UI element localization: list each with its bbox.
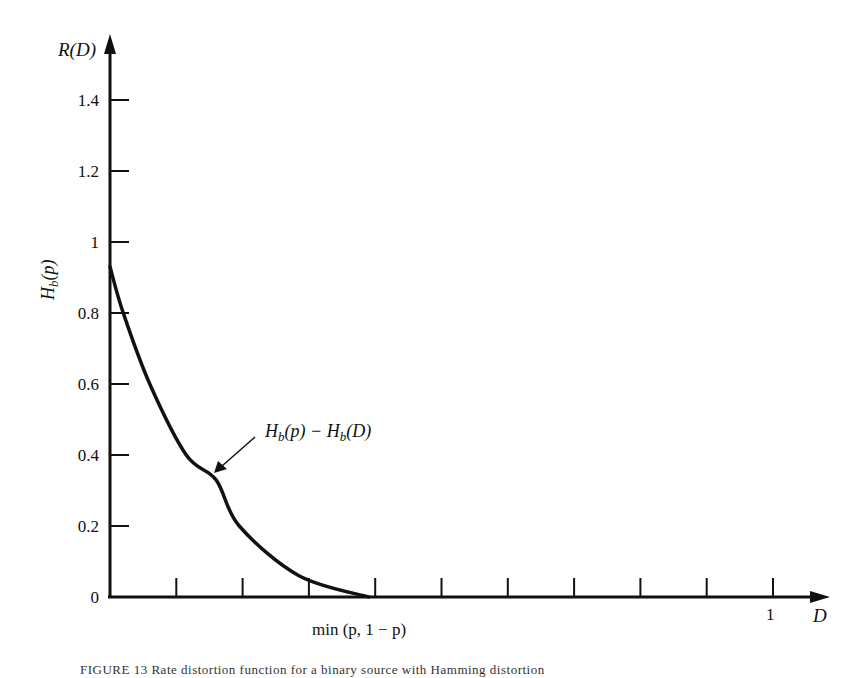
x-axis-label: D: [812, 605, 827, 626]
y-ticks: 00.20.40.60.811.21.4: [78, 91, 129, 607]
curve-label: Hb(p) − Hb(D): [264, 421, 371, 444]
x-tick-label-one: 1: [766, 605, 775, 624]
x-ticks: [176, 578, 773, 597]
svg-text:Hb(p): Hb(p): [38, 260, 61, 302]
y-tick-label: 0.6: [78, 375, 99, 394]
y-axis-arrow-icon: [104, 34, 116, 54]
x-tick-label-min: min (p, 1 − p): [312, 620, 406, 639]
y-tick-label: 0: [91, 588, 100, 607]
y-tick-label: 1.4: [78, 91, 100, 110]
x-axis-arrow-icon: [810, 591, 830, 603]
y-tick-label: 0.2: [78, 517, 99, 536]
annotation-arrow: [222, 437, 255, 466]
y-tick-label: 0.8: [78, 304, 99, 323]
y-tick-label: 1.2: [78, 162, 99, 181]
y-tick-label: 0.4: [78, 446, 100, 465]
y-tick-label: 1: [91, 233, 100, 252]
hbp-side-label: Hb(p): [38, 260, 61, 302]
y-axis-label: R(D): [57, 39, 96, 61]
figure-caption: FIGURE 13 Rate distortion function for a…: [80, 662, 545, 678]
